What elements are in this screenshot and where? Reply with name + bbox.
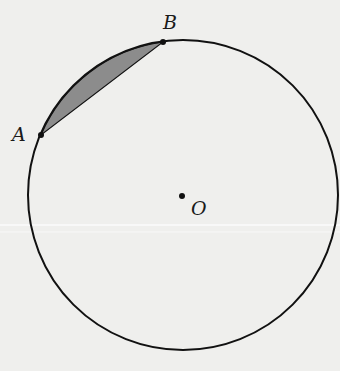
- point-a: [38, 132, 44, 138]
- label-o: O: [191, 197, 207, 219]
- label-b: B: [162, 11, 177, 33]
- circle-diagram: A B O: [0, 0, 340, 371]
- shaded-segment: [41, 42, 163, 135]
- center-point-o: [179, 193, 185, 199]
- label-a: A: [10, 123, 26, 145]
- point-b: [160, 39, 166, 45]
